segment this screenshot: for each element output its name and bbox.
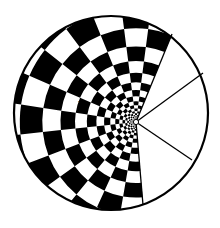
checker-cell <box>116 142 126 151</box>
checker-cell <box>87 151 105 169</box>
checker-cell <box>62 47 90 75</box>
checker-cell <box>119 151 130 161</box>
checker-cell <box>128 117 130 120</box>
checker-cell <box>105 90 117 102</box>
checker-cell <box>131 118 133 120</box>
checker-cell <box>123 109 128 114</box>
checker-cell <box>90 136 104 151</box>
checker-cell <box>115 119 119 124</box>
checker-cell <box>135 113 137 115</box>
checker-cell <box>123 135 129 141</box>
checker-cell <box>119 123 123 128</box>
checker-cell <box>111 112 117 119</box>
checker-cell <box>65 144 86 166</box>
checker-cell <box>131 130 134 133</box>
checker-cell <box>131 124 133 126</box>
checker-cell <box>27 156 59 190</box>
checker-cell <box>111 167 128 182</box>
checker-cell <box>117 92 126 101</box>
checker-cell <box>130 121 131 122</box>
checker-cell <box>113 62 130 77</box>
checker-cell <box>88 169 111 191</box>
checker-cell <box>121 83 132 93</box>
checker-cell <box>132 124 133 125</box>
checker-cell <box>20 105 44 135</box>
checker-cell <box>131 147 139 154</box>
checker-cell <box>134 108 137 111</box>
checker-cell <box>131 114 134 116</box>
checkerboard-sectors <box>7 0 186 228</box>
checker-cell <box>101 29 127 52</box>
checker-cell <box>125 118 128 121</box>
checker-cell <box>122 130 127 135</box>
checker-cell <box>133 115 135 117</box>
checker-cell <box>130 116 132 118</box>
checker-cell <box>130 125 132 127</box>
checker-cell <box>106 131 115 140</box>
checker-cell <box>117 128 123 134</box>
checker-cell <box>110 124 116 131</box>
checker-cell <box>91 92 105 107</box>
checker-cell <box>91 52 113 73</box>
checker-cell <box>146 29 172 52</box>
checker-cell <box>128 125 130 128</box>
checker-cell <box>106 76 121 90</box>
checker-cell <box>133 101 138 105</box>
checker-cell <box>151 0 185 14</box>
checker-cell <box>125 141 132 148</box>
checker-cell <box>124 103 130 109</box>
checker-cell <box>134 125 135 126</box>
checker-cell <box>131 120 132 121</box>
checker-cell <box>43 85 66 111</box>
checker-cell <box>127 127 130 130</box>
checker-cell <box>132 90 140 96</box>
checker-cell <box>117 109 123 115</box>
checker-cell <box>142 62 159 77</box>
checker-cell <box>87 115 97 128</box>
checker-cell <box>123 126 127 130</box>
checker-cell <box>97 125 107 136</box>
checker-cell <box>128 109 132 113</box>
checker-cell <box>124 114 128 118</box>
checker-cell <box>127 130 131 134</box>
checker-cell <box>126 96 133 102</box>
checker-cell <box>119 115 123 120</box>
checker-cell <box>130 105 135 109</box>
checker-cell <box>60 166 88 194</box>
checker-cell <box>133 127 135 129</box>
checker-cell <box>128 161 141 171</box>
checker-cell <box>88 73 106 91</box>
checker-cell <box>115 134 123 142</box>
checker-cell <box>123 182 142 198</box>
checker-cell <box>116 101 124 109</box>
apex-point <box>133 119 138 124</box>
checker-cell <box>129 119 131 121</box>
checker-cell <box>60 111 75 130</box>
diagram-canvas: x <box>0 0 220 228</box>
checker-cell <box>125 123 128 126</box>
checker-cell <box>107 102 116 112</box>
checker-cell <box>129 134 134 138</box>
checker-cell <box>127 121 129 123</box>
checker-cell <box>116 214 146 228</box>
checker-cell <box>132 126 134 128</box>
checker-cell <box>122 120 125 123</box>
checker-cell <box>126 46 145 61</box>
checker-cell <box>127 113 130 116</box>
checker-cell <box>105 153 120 167</box>
checker-cell <box>132 118 133 119</box>
checker-cell <box>131 122 132 123</box>
checker-cell <box>130 73 143 83</box>
checker-cell <box>34 18 66 50</box>
checker-cell <box>133 117 135 119</box>
checker-cell <box>87 0 121 14</box>
annotation-x-mark: x <box>78 100 83 107</box>
polar-checkerboard-figure <box>0 0 220 228</box>
checker-cell <box>129 123 131 125</box>
checker-cell <box>75 127 90 144</box>
checker-cell <box>97 106 107 117</box>
wedge-divider-line <box>136 122 192 160</box>
checker-cell <box>67 75 88 98</box>
checker-cell <box>132 111 135 114</box>
checker-cell <box>134 117 135 118</box>
